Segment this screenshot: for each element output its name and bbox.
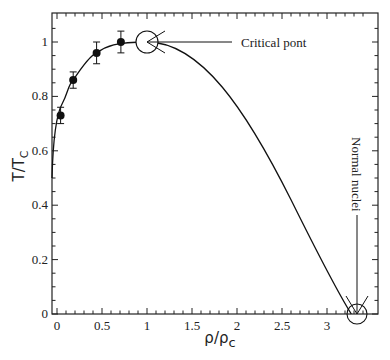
x-tick-label: 0	[54, 318, 61, 333]
axis-ticks	[52, 13, 378, 314]
x-tick-label: 3	[324, 318, 331, 333]
y-tick-label: 0.8	[32, 88, 48, 103]
y-axis-label: T/TC	[10, 150, 31, 182]
y-tick-label: 0.6	[32, 143, 49, 158]
phase-diagram-chart: 00.511.522.5300.20.40.60.81 T/TC ρ/ρc Cr…	[0, 0, 390, 360]
x-tick-label: 2.5	[274, 318, 290, 333]
y-tick-label: 0.2	[32, 252, 48, 267]
plot-frame	[52, 13, 378, 314]
critical-point-label: Critical pont	[241, 35, 307, 50]
phase-boundary-curve	[52, 42, 351, 314]
normal-nuclei-label: Normal nuclei	[349, 137, 364, 212]
normal-nuclei-annotation: Normal nuclei	[346, 137, 368, 324]
data-point	[69, 72, 77, 88]
y-tick-label: 0	[42, 306, 49, 321]
x-tick-label: 2	[234, 318, 241, 333]
x-axis-label: ρ/ρc	[204, 329, 235, 350]
critical-point-annotation: Critical pont	[136, 31, 307, 53]
x-tick-label: 1.5	[184, 318, 200, 333]
y-tick-label: 0.4	[32, 197, 49, 212]
data-point	[93, 42, 101, 64]
x-tick-label: 1	[144, 318, 151, 333]
x-tick-label: 0.5	[94, 318, 110, 333]
y-tick-label: 1	[42, 34, 49, 49]
data-point	[117, 31, 125, 53]
svg-text:T/TC: T/TC	[10, 150, 31, 182]
data-point	[57, 107, 65, 123]
svg-text:ρ/ρc: ρ/ρc	[204, 329, 235, 350]
